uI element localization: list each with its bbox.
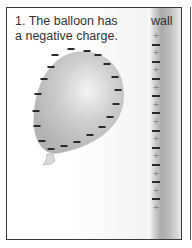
- balloon-negative-charge: [34, 125, 41, 127]
- balloon-negative-charge: [87, 134, 94, 136]
- wall-positive-charge: +: [153, 151, 159, 161]
- balloon-negative-charge: [84, 50, 91, 52]
- wall-positive-charge: +: [153, 48, 159, 58]
- wall-negative-charge: [152, 181, 160, 183]
- balloon-negative-charge: [115, 89, 122, 91]
- wall-negative-charge: [152, 44, 160, 46]
- balloon-negative-charge: [52, 54, 59, 56]
- balloon-negative-charge: [74, 141, 81, 143]
- balloon-negative-charge: [112, 76, 119, 78]
- balloon-negative-charge: [104, 63, 111, 65]
- balloon-negative-charge: [95, 54, 102, 56]
- balloon-negative-charge: [48, 66, 55, 68]
- wall-negative-charge: [152, 147, 160, 149]
- balloon-negative-charge: [113, 103, 120, 105]
- balloon-negative-charge: [41, 78, 48, 80]
- balloon-negative-charge: [48, 148, 55, 150]
- balloon-knot: [43, 154, 55, 165]
- wall-negative-charge: [152, 164, 160, 166]
- wall-negative-charge: [152, 78, 160, 80]
- balloon-negative-charge: [68, 48, 75, 50]
- wall-negative-charge: [152, 95, 160, 97]
- wall-positive-charge: +: [153, 100, 159, 110]
- wall-positive-charge: +: [153, 117, 159, 127]
- wall-negative-charge: [152, 112, 160, 114]
- wall-negative-charge: [152, 61, 160, 63]
- balloon-negative-charge: [35, 93, 42, 95]
- balloon-negative-charge: [99, 126, 106, 128]
- wall-positive-charge: +: [153, 169, 159, 179]
- balloon-negative-charge: [107, 116, 114, 118]
- wall-positive-charge: +: [153, 186, 159, 196]
- wall-positive-charge: +: [153, 65, 159, 75]
- wall-negative-charge: [152, 198, 160, 200]
- diagram-panel: 1. The balloon has a negative charge. wa…: [6, 7, 182, 240]
- wall-positive-charge: +: [153, 31, 159, 41]
- balloon: [34, 52, 124, 153]
- balloon-negative-charge: [61, 145, 68, 147]
- wall-positive-charge: +: [153, 83, 159, 93]
- wall-positive-charge: +: [153, 203, 159, 213]
- wall-negative-charge: [152, 130, 160, 132]
- balloon-negative-charge: [39, 140, 46, 142]
- wall-positive-charge: +: [153, 134, 159, 144]
- next-panel-edge: [190, 7, 191, 240]
- balloon-negative-charge: [33, 110, 40, 112]
